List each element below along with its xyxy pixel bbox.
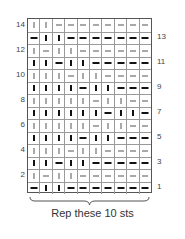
knit-symbol-icon — [83, 148, 84, 154]
row-number-8: 8 — [14, 96, 25, 104]
purl-symbol-icon — [105, 25, 111, 26]
chart-cell — [28, 158, 39, 170]
purl-symbol-icon — [105, 162, 112, 164]
chart-cell — [126, 120, 138, 132]
purl-symbol-icon — [129, 87, 136, 89]
knit-symbol-icon — [70, 85, 72, 91]
knit-symbol-icon — [83, 98, 84, 104]
chart-cell — [126, 70, 138, 82]
purl-symbol-icon — [80, 50, 86, 51]
chart-cell — [28, 45, 39, 57]
chart-cell — [39, 83, 51, 95]
chart-row-11 — [28, 57, 151, 70]
repeat-brace-icon — [29, 196, 150, 206]
purl-symbol-icon — [129, 62, 136, 64]
knit-symbol-icon — [33, 85, 35, 91]
knit-symbol-icon — [70, 135, 72, 141]
knit-symbol-icon — [120, 110, 122, 116]
knit-symbol-icon — [58, 173, 59, 179]
purl-symbol-icon — [80, 37, 87, 39]
chart-cell — [77, 183, 89, 195]
chart-row-2 — [28, 169, 151, 182]
chart-cell — [89, 158, 101, 170]
chart-cell — [126, 108, 138, 120]
chart-cell — [101, 120, 113, 132]
chart-cell — [139, 120, 151, 132]
chart-cell — [126, 33, 138, 45]
chart-cell — [77, 45, 89, 57]
chart-cell — [39, 158, 51, 170]
row-number-14: 14 — [14, 21, 25, 29]
row-number-5: 5 — [157, 133, 161, 141]
purl-symbol-icon — [117, 137, 124, 139]
knit-symbol-icon — [58, 35, 60, 41]
chart-cell — [28, 120, 39, 132]
chart-cell — [139, 170, 151, 182]
knit-symbol-icon — [58, 98, 59, 104]
chart-cell — [101, 145, 113, 157]
chart-cell — [39, 133, 51, 145]
purl-symbol-icon — [105, 112, 112, 114]
chart-row-10 — [28, 69, 151, 82]
knit-symbol-icon — [45, 85, 47, 91]
purl-symbol-icon — [142, 100, 148, 101]
chart-cell — [101, 170, 113, 182]
purl-symbol-icon — [118, 50, 124, 51]
chart-cell — [89, 145, 101, 157]
knit-symbol-icon — [45, 135, 47, 141]
chart-cell — [77, 58, 89, 70]
chart-cell — [101, 58, 113, 70]
knit-symbol-icon — [46, 148, 47, 154]
knit-symbol-icon — [33, 123, 34, 129]
chart-cell — [64, 158, 76, 170]
chart-cell — [77, 70, 89, 82]
purl-symbol-icon — [105, 187, 112, 189]
chart-cell — [89, 33, 101, 45]
chart-row-3 — [28, 157, 151, 170]
knit-symbol-icon — [58, 85, 60, 91]
knit-symbol-icon — [95, 85, 97, 91]
purl-symbol-icon — [117, 187, 124, 189]
knit-symbol-icon — [58, 48, 59, 54]
chart-cell — [114, 83, 126, 95]
knit-symbol-icon — [83, 123, 84, 129]
purl-symbol-icon — [30, 37, 37, 39]
chart-cell — [126, 45, 138, 57]
chart-cell — [77, 133, 89, 145]
chart-cell — [77, 120, 89, 132]
knit-symbol-icon — [70, 98, 71, 104]
chart-cell — [101, 95, 113, 107]
purl-symbol-icon — [142, 150, 148, 151]
chart-cell — [52, 58, 64, 70]
chart-cell — [101, 33, 113, 45]
chart-cell — [126, 170, 138, 182]
purl-symbol-icon — [118, 75, 124, 76]
purl-symbol-icon — [105, 175, 111, 176]
chart-cell — [64, 19, 76, 32]
chart-cell — [39, 108, 51, 120]
purl-symbol-icon — [130, 150, 136, 151]
purl-symbol-icon — [55, 162, 62, 164]
purl-symbol-icon — [105, 62, 112, 64]
knit-symbol-icon — [33, 148, 34, 154]
purl-symbol-icon — [68, 25, 74, 26]
purl-symbol-icon — [118, 25, 124, 26]
row-number-12: 12 — [14, 46, 25, 54]
chart-row-12 — [28, 44, 151, 57]
knit-symbol-icon — [120, 98, 121, 104]
chart-cell — [52, 183, 64, 195]
chart-row-4 — [28, 144, 151, 157]
purl-symbol-icon — [142, 50, 148, 51]
chart-cell — [114, 183, 126, 195]
purl-symbol-icon — [142, 62, 149, 64]
purl-symbol-icon — [80, 175, 86, 176]
purl-symbol-icon — [130, 75, 136, 76]
purl-symbol-icon — [43, 50, 49, 51]
knit-symbol-icon — [70, 110, 72, 116]
knit-symbol-icon — [33, 73, 34, 79]
chart-cell — [28, 19, 39, 32]
chart-cell — [139, 33, 151, 45]
knit-symbol-icon — [33, 48, 34, 54]
chart-row-14 — [28, 19, 151, 32]
chart-cell — [64, 145, 76, 157]
